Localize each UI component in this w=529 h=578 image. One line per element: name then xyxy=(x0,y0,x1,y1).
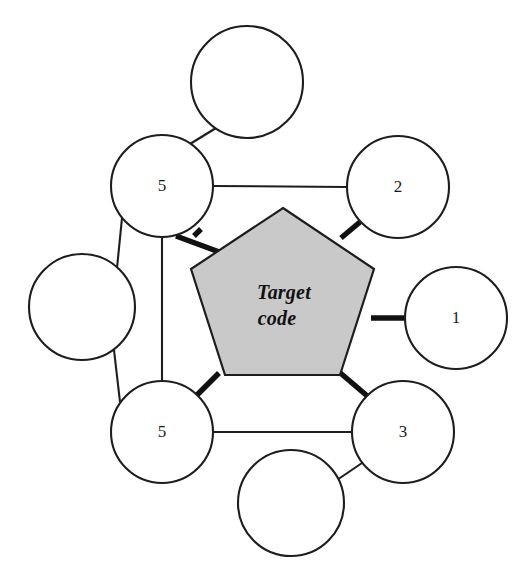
node-label: 5 xyxy=(158,422,167,441)
ring-edge-topleft-topempty xyxy=(190,128,216,144)
ring-edge-lowerright-bottomempty xyxy=(337,463,362,480)
pentagon-label-line1: Target xyxy=(257,281,312,304)
node-top-left[interactable]: 5 xyxy=(111,135,213,237)
node-bottom-left[interactable]: 5 xyxy=(111,381,213,483)
node-circle[interactable] xyxy=(191,26,303,138)
node-circle[interactable] xyxy=(29,254,135,360)
node-left-empty[interactable] xyxy=(29,254,135,360)
node-top-empty[interactable] xyxy=(191,26,303,138)
node-circle[interactable] xyxy=(238,450,344,556)
node-label: 3 xyxy=(399,422,408,441)
node-label: 2 xyxy=(394,177,403,196)
network-diagram: Target code 5 2 1 xyxy=(0,0,529,578)
node-lower-right[interactable]: 3 xyxy=(352,381,454,483)
ring-edge-topleft-upperright xyxy=(213,186,347,187)
spoke-center-topleft xyxy=(194,229,201,236)
spoke-center-upperright xyxy=(341,222,360,238)
node-right[interactable]: 1 xyxy=(405,267,507,369)
node-label: 1 xyxy=(452,308,461,327)
node-bottom-empty[interactable] xyxy=(238,450,344,556)
pentagon-label-line2: code xyxy=(258,307,297,329)
ring-edge-topleft-leftempty xyxy=(117,218,122,268)
diagram-canvas: Target code 5 2 1 xyxy=(0,0,529,578)
ring-edge-bottomleft-leftempty xyxy=(114,350,120,402)
node-upper-right[interactable]: 2 xyxy=(347,136,449,238)
spoke-center-topleft-long xyxy=(176,236,222,253)
node-label: 5 xyxy=(158,176,167,195)
